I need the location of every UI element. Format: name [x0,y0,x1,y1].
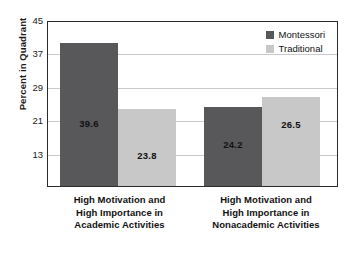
legend-swatch-icon [266,31,274,39]
category-label-line: High Importance in [191,207,341,220]
bar-value-label: 39.6 [60,118,118,129]
category-label-line: Nonacademic Activities [191,219,341,232]
category-label-line: High Motivation and [191,194,341,207]
y-tick-label: 37 [15,49,43,59]
legend-item-label: Traditional [279,43,323,54]
legend-item-traditional[interactable]: Traditional [266,42,325,55]
y-tick-label: 29 [15,83,43,93]
category-label-nonacademic: High Motivation and High Importance in N… [191,194,341,232]
bar-value-label: 24.2 [204,139,262,150]
legend-item-montessori[interactable]: Montessori [266,28,325,41]
bar-montessori-academic[interactable]: 39.6 [60,43,118,186]
bar-montessori-nonacademic[interactable]: 24.2 [204,107,262,186]
plot-area: 39.6 23.8 24.2 26.5 Montessori Tradition… [47,21,338,187]
y-tick-label: 45 [15,16,43,26]
category-label-line: High Motivation and [47,194,192,207]
legend-swatch-icon [266,45,274,53]
bar-traditional-academic[interactable]: 23.8 [118,109,176,186]
bar-chart-figure: Percent in Quadrant 45 37 29 21 13 39.6 … [0,0,354,253]
bar-value-label: 26.5 [262,119,320,130]
category-label-line: High Importance in [47,207,192,220]
legend-item-label: Montessori [279,29,325,40]
y-tick-label: 21 [15,116,43,126]
bar-traditional-nonacademic[interactable]: 26.5 [262,97,320,186]
category-label-academic: High Motivation and High Importance in A… [47,194,192,232]
y-tick-label: 13 [15,150,43,160]
legend: Montessori Traditional [266,28,325,56]
bar-value-label: 23.8 [118,150,176,161]
category-label-line: Academic Activities [47,219,192,232]
